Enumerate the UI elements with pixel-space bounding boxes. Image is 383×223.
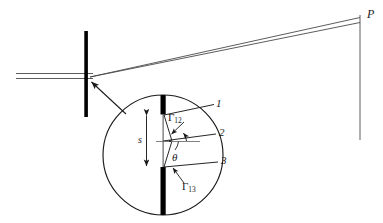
magnified-barrier-upper	[161, 88, 166, 115]
label-ray-3: 3	[221, 155, 227, 166]
magnified-barrier-lower	[161, 167, 166, 223]
label-ray-2: 2	[219, 127, 225, 138]
diffracted-beam	[90, 18, 360, 78]
incoming-beam	[16, 74, 93, 79]
label-point-p: P	[367, 8, 374, 20]
barrier-screen	[84, 31, 88, 117]
callout-arrow	[92, 82, 127, 114]
label-slit-separation: s	[138, 135, 142, 145]
slit-center-point	[169, 140, 171, 142]
label-gamma-13: Γ13	[182, 181, 196, 193]
label-angle-theta: θ	[172, 152, 177, 163]
diffraction-figure: P 1 2 3 s θ Γ12 Γ13	[0, 0, 383, 223]
gamma-13-subscript: 13	[188, 185, 195, 194]
label-gamma-12: Γ12	[168, 112, 182, 124]
label-ray-1: 1	[216, 98, 222, 109]
gamma-12-subscript: 12	[174, 116, 181, 125]
